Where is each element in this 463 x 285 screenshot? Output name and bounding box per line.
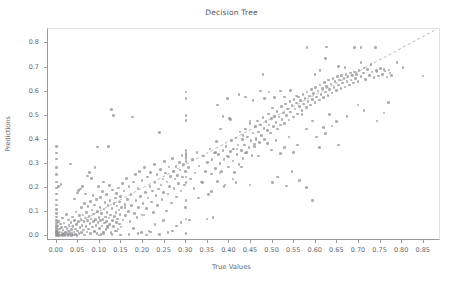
data-point	[131, 116, 134, 119]
data-point	[214, 167, 217, 170]
x-tick-label: 0.55	[286, 246, 300, 254]
data-point	[188, 219, 191, 222]
data-point	[152, 211, 155, 214]
data-point	[175, 165, 178, 168]
data-point	[119, 213, 122, 216]
data-point	[95, 198, 98, 201]
data-point	[105, 220, 108, 223]
data-point	[292, 116, 295, 119]
data-point	[240, 149, 243, 152]
data-point	[314, 86, 317, 89]
data-point	[219, 162, 222, 165]
data-point	[137, 206, 140, 209]
data-point	[216, 104, 219, 107]
data-point	[388, 69, 391, 72]
data-point	[306, 91, 309, 94]
data-point	[76, 192, 79, 195]
data-point	[289, 89, 292, 92]
data-point	[90, 177, 93, 180]
data-point	[255, 138, 258, 141]
data-point	[120, 206, 123, 209]
x-tick-label: 0.30	[178, 246, 192, 254]
data-point	[363, 67, 366, 70]
data-point	[55, 216, 58, 219]
data-point	[262, 73, 265, 76]
x-axis-ticks: 0.000.050.100.150.200.250.300.350.400.45…	[47, 240, 440, 258]
data-point	[132, 181, 135, 184]
data-point	[112, 225, 115, 228]
data-point	[55, 145, 58, 148]
data-point	[55, 208, 58, 211]
data-point	[112, 114, 115, 117]
data-point	[223, 158, 226, 161]
data-point	[102, 232, 105, 235]
data-point	[311, 98, 314, 101]
x-tick-mark	[293, 240, 294, 243]
y-tick-label: 0.4	[29, 135, 39, 143]
data-point	[71, 216, 74, 219]
data-point	[350, 79, 353, 82]
data-point	[346, 80, 349, 83]
data-points-layer	[48, 29, 439, 239]
data-point	[121, 182, 124, 185]
data-point	[183, 184, 186, 187]
data-point	[166, 181, 169, 184]
data-point	[278, 116, 281, 119]
y-tick-label: 0.3	[29, 159, 39, 167]
data-point	[270, 149, 273, 152]
data-point	[157, 188, 160, 191]
data-point	[168, 185, 171, 188]
data-point	[364, 78, 367, 81]
data-point	[150, 201, 153, 204]
data-point	[321, 87, 324, 90]
data-point	[165, 210, 168, 213]
data-point	[92, 220, 95, 223]
data-point	[139, 195, 142, 198]
data-point	[422, 75, 425, 78]
data-point	[113, 202, 116, 205]
data-point	[123, 190, 126, 193]
data-point	[83, 202, 86, 205]
data-point	[156, 173, 159, 176]
x-tick-mark	[99, 240, 100, 243]
data-point	[249, 120, 252, 123]
data-point	[70, 221, 73, 224]
data-point	[75, 211, 78, 214]
data-point	[181, 154, 184, 157]
x-axis-title: True Values	[0, 263, 463, 271]
data-point	[119, 195, 122, 198]
data-point	[61, 217, 64, 220]
data-point	[259, 90, 262, 93]
data-point	[219, 128, 222, 131]
x-tick-label: 0.65	[329, 246, 343, 254]
data-point	[377, 75, 380, 78]
data-point	[178, 161, 181, 164]
data-point	[117, 187, 120, 190]
data-point	[276, 128, 279, 131]
data-point	[317, 90, 320, 93]
data-point	[222, 115, 225, 118]
data-point	[256, 120, 259, 123]
data-point	[185, 199, 188, 202]
data-point	[154, 223, 157, 226]
data-point	[302, 93, 305, 96]
data-point	[108, 217, 111, 220]
data-point	[149, 185, 152, 188]
data-point	[104, 216, 107, 219]
x-tick-mark	[250, 240, 251, 243]
x-tick-label: 0.75	[372, 246, 386, 254]
data-point	[376, 120, 379, 123]
data-point	[81, 185, 84, 188]
data-point	[162, 191, 165, 194]
data-point	[81, 224, 84, 227]
data-point	[137, 187, 140, 190]
data-point	[308, 95, 311, 98]
data-point	[319, 84, 322, 87]
data-point	[276, 176, 279, 179]
data-point	[145, 207, 148, 210]
data-point	[108, 184, 111, 187]
data-point	[330, 83, 333, 86]
data-point	[311, 199, 314, 202]
data-point	[246, 136, 249, 139]
data-point	[358, 69, 361, 72]
